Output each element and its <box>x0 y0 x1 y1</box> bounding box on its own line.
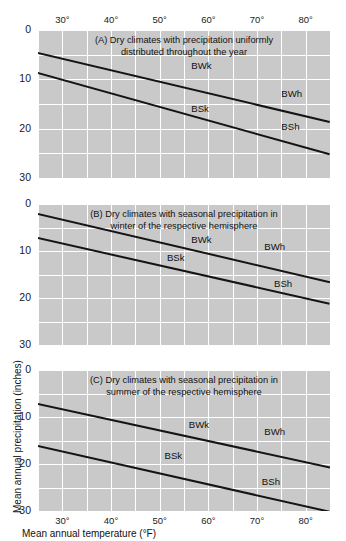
panel-title-line: (C) Dry climates with seasonal precipita… <box>38 375 330 387</box>
x-tick-label: 30° <box>45 515 79 526</box>
zone-label-bwh: BWh <box>281 88 302 99</box>
plot-area-a: BWkBWhBSkBSh(A) Dry climates with precip… <box>38 30 330 178</box>
gridline-horizontal <box>38 322 330 323</box>
zone-label-bwh: BWh <box>264 241 285 252</box>
y-tick-label: 10 <box>5 244 31 256</box>
gridline-horizontal <box>38 464 330 465</box>
y-tick-label: 30 <box>5 338 31 350</box>
plot-area-b: BWkBWhBSkBSh(B) Dry climates with season… <box>38 204 330 345</box>
x-tick-label: 80° <box>289 515 323 526</box>
panel-a: BWkBWhBSkBSh(A) Dry climates with precip… <box>0 30 346 178</box>
gridline-horizontal <box>38 417 330 418</box>
zone-label-bsk: BSk <box>165 450 183 461</box>
panel-title-b: (B) Dry climates with seasonal precipita… <box>38 209 330 232</box>
zone-label-bwk: BWk <box>189 419 209 430</box>
gridline-horizontal <box>38 441 330 442</box>
gridline-horizontal <box>38 275 330 276</box>
x-tick-label: 40° <box>94 14 128 25</box>
gridline-horizontal <box>38 488 330 489</box>
x-tick-label: 80° <box>289 14 323 25</box>
panel-title-line: summer of the respective hemisphere <box>38 387 330 399</box>
gridline-horizontal <box>38 204 330 205</box>
panel-b: BWkBWhBSkBSh(B) Dry climates with season… <box>0 204 346 345</box>
zone-label-bsh: BSh <box>274 278 292 289</box>
y-tick-label: 10 <box>5 72 31 84</box>
zone-label-bsk: BSk <box>191 103 209 114</box>
gridline-horizontal <box>38 370 330 371</box>
zone-label-bsh: BSh <box>281 121 299 132</box>
panel-title-line: distributed throughout the year <box>38 47 330 59</box>
zone-label-bsh: BSh <box>262 476 280 487</box>
zone-label-bwk: BWk <box>191 60 211 71</box>
y-tick-label: 20 <box>5 122 31 134</box>
panel-title-line: (B) Dry climates with seasonal precipita… <box>38 209 330 221</box>
panel-title-line: (A) Dry climates with precipitation unif… <box>38 35 330 47</box>
gridline-horizontal <box>38 104 330 105</box>
gridline-horizontal <box>38 153 330 154</box>
zone-label-bwk: BWk <box>191 234 211 245</box>
y-tick-label: 0 <box>5 197 31 209</box>
x-tick-label: 50° <box>143 14 177 25</box>
panel-c: BWkBWhBSkBSh(C) Dry climates with season… <box>0 370 346 511</box>
panel-title-c: (C) Dry climates with seasonal precipita… <box>38 375 330 398</box>
x-tick-label: 70° <box>240 14 274 25</box>
x-tick-label: 40° <box>94 515 128 526</box>
x-tick-label: 60° <box>191 14 225 25</box>
x-tick-label: 70° <box>240 515 274 526</box>
y-tick-label: 20 <box>5 291 31 303</box>
zone-label-bsk: BSk <box>167 252 185 263</box>
gridline-horizontal <box>38 30 330 31</box>
x-axis-title: Mean annual temperature (°F) <box>22 528 156 539</box>
y-tick-label: 0 <box>5 23 31 35</box>
y-axis-title: Mean annual precipitation (inches) <box>12 360 23 513</box>
x-tick-label: 60° <box>191 515 225 526</box>
x-tick-label: 30° <box>45 14 79 25</box>
panel-title-line: winter of the respective hemisphere <box>38 221 330 233</box>
gridline-horizontal <box>38 298 330 299</box>
gridline-horizontal <box>38 79 330 80</box>
zone-label-bwh: BWh <box>264 426 285 437</box>
plot-area-c: BWkBWhBSkBSh(C) Dry climates with season… <box>38 370 330 511</box>
y-tick-label: 30 <box>5 171 31 183</box>
x-tick-label: 50° <box>143 515 177 526</box>
panel-title-a: (A) Dry climates with precipitation unif… <box>38 35 330 58</box>
